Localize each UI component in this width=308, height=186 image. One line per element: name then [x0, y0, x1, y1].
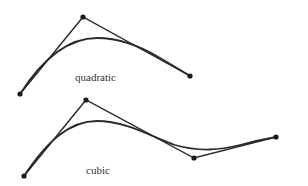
control-point	[273, 134, 278, 139]
quadratic-curve	[20, 38, 190, 94]
control-point	[80, 14, 85, 19]
quadratic-control-points	[17, 14, 192, 96]
control-point	[187, 73, 192, 78]
control-point	[191, 155, 196, 160]
quadratic-label: quadratic	[75, 71, 116, 83]
cubic-control-points	[21, 97, 278, 178]
control-point	[17, 91, 22, 96]
quadratic-bezier	[17, 14, 192, 96]
control-point	[21, 173, 26, 178]
cubic-bezier	[21, 97, 278, 178]
control-point	[83, 97, 88, 102]
bezier-diagram	[0, 0, 308, 186]
cubic-control-polygon	[24, 100, 276, 176]
cubic-label: cubic	[86, 164, 110, 176]
